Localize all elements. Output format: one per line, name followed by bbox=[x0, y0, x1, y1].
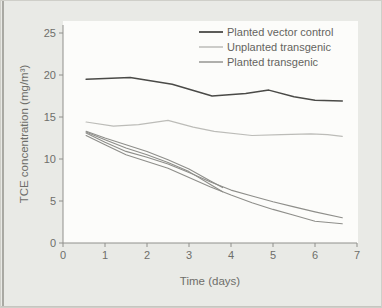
x-tick-label: 0 bbox=[60, 249, 66, 261]
legend-label: Planted vector control bbox=[227, 26, 333, 38]
scanned-figure-page: 012345670510152025 Planted vector contro… bbox=[0, 0, 382, 308]
y-tick-label: 20 bbox=[44, 69, 56, 81]
x-tick-label: 5 bbox=[270, 249, 276, 261]
x-tick-label: 4 bbox=[228, 249, 234, 261]
x-tick-label: 2 bbox=[144, 249, 150, 261]
legend-label: Unplanted transgenic bbox=[227, 41, 331, 53]
y-tick-label: 10 bbox=[44, 153, 56, 165]
y-tick-label: 15 bbox=[44, 111, 56, 123]
plot-area bbox=[63, 21, 358, 243]
y-tick-label: 0 bbox=[50, 237, 56, 249]
y-tick-label: 25 bbox=[44, 27, 56, 39]
legend-label: Planted transgenic bbox=[227, 56, 319, 68]
legend: Planted vector controlUnplanted transgen… bbox=[199, 26, 333, 68]
x-axis-title: Time (days) bbox=[180, 275, 240, 287]
tce-line-chart: 012345670510152025 Planted vector contro… bbox=[1, 1, 382, 308]
x-tick-label: 1 bbox=[102, 249, 108, 261]
x-tick-label: 6 bbox=[312, 249, 318, 261]
y-tick-label: 5 bbox=[50, 195, 56, 207]
x-tick-label: 3 bbox=[186, 249, 192, 261]
x-tick-label: 7 bbox=[354, 249, 360, 261]
y-axis-title: TCE concentration (mg/m³) bbox=[18, 64, 30, 203]
